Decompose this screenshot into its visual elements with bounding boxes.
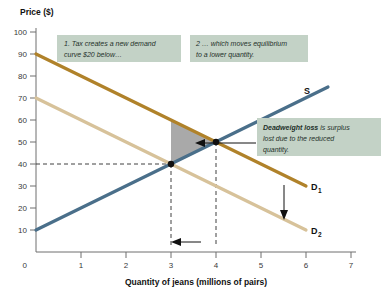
callout-equilibrium-moves-line2: to a lower quantity. — [196, 51, 254, 59]
deadweight-loss-triangle — [171, 120, 216, 164]
y-tick-label-70: 70 — [18, 94, 27, 103]
y-tick-label-80: 80 — [18, 72, 27, 81]
quantity-shift-left-arrow — [171, 238, 201, 246]
economics-supply-demand-chart: Price ($) 100 90 80 70 60 50 40 30 20 10… — [0, 0, 389, 295]
y-tick-label-90: 90 — [18, 50, 27, 59]
equilibrium-point-new — [168, 161, 174, 167]
callout-tax-new-demand-line1: 1. Tax creates a new demand — [64, 40, 157, 47]
callout-deadweight-loss-line1: is surplus — [318, 124, 350, 132]
callout-deadweight-loss-line2: lost due to the reduced — [263, 135, 335, 142]
callout-equilibrium-moves: 2 … which moves equilibrium to a lower q… — [190, 35, 308, 62]
callout-tax-new-demand: 1. Tax creates a new demand curve $20 be… — [57, 35, 181, 62]
x-tick-label-2: 2 — [124, 261, 129, 270]
demand1-curve-label-subscript: 1 — [318, 187, 322, 194]
x-tick-label-1: 1 — [79, 261, 84, 270]
y-axis-ticks — [30, 32, 36, 230]
x-tick-label-5: 5 — [259, 261, 264, 270]
x-axis-ticks — [81, 252, 351, 258]
callout-deadweight-loss-line3: quantity. — [263, 146, 289, 154]
y-tick-label-0: 0 — [23, 261, 28, 270]
x-tick-label-7: 7 — [349, 261, 354, 270]
y-tick-label-20: 20 — [18, 204, 27, 213]
y-tick-label-30: 30 — [18, 182, 27, 191]
callout-equilibrium-moves-line1: 2 … which moves equilibrium — [195, 40, 287, 48]
chart-canvas: Price ($) 100 90 80 70 60 50 40 30 20 10… — [0, 0, 389, 295]
demand2-curve-label: D — [311, 226, 318, 236]
x-tick-label-3: 3 — [169, 261, 174, 270]
x-tick-label-4: 4 — [214, 261, 219, 270]
demand2-curve-label-subscript: 2 — [318, 231, 322, 238]
y-tick-label-60: 60 — [18, 116, 27, 125]
x-axis-title: Quantity of jeans (millions of pairs) — [125, 277, 267, 287]
svg-text:Deadweight loss is surplus: Deadweight loss is surplus — [263, 124, 350, 132]
supply-curve-label: S — [304, 86, 310, 96]
equilibrium-point-original — [213, 139, 219, 145]
callout-tax-new-demand-line2: curve $20 below… — [64, 51, 122, 58]
y-axis-title: Price ($) — [20, 7, 54, 17]
y-tick-label-40: 40 — [18, 160, 27, 169]
demand-shift-down-arrow — [280, 185, 288, 220]
y-tick-label-10: 10 — [18, 226, 27, 235]
y-tick-label-50: 50 — [18, 138, 27, 147]
x-tick-label-6: 6 — [304, 261, 309, 270]
demand1-curve-label: D — [311, 182, 318, 192]
y-tick-label-100: 100 — [14, 28, 28, 37]
callout-deadweight-loss: Deadweight loss is surplus lost due to t… — [257, 118, 381, 156]
callout-deadweight-loss-lead: Deadweight loss — [263, 124, 318, 132]
